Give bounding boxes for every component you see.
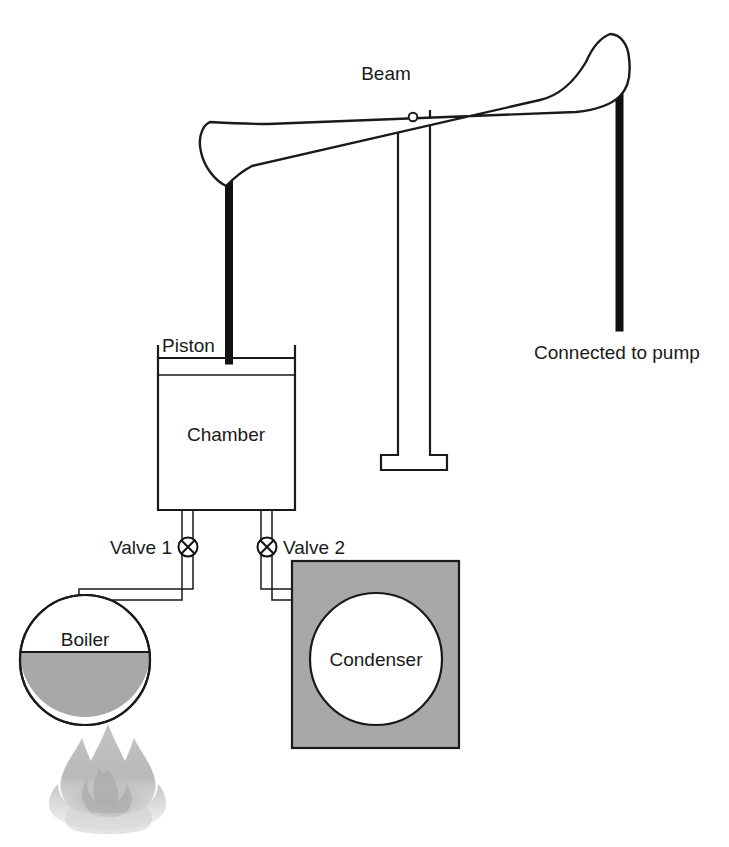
valve-2-icon[interactable] (258, 538, 277, 557)
valve-1-icon[interactable] (179, 538, 198, 557)
boiler (20, 595, 150, 725)
valve-1-label: Valve 1 (110, 537, 172, 558)
engine-schematic-canvas: Beam Piston Chamber Val (0, 0, 729, 847)
piston-label: Piston (162, 335, 215, 356)
beam (200, 34, 630, 186)
chamber-label: Chamber (187, 424, 266, 445)
support-column (381, 110, 447, 470)
valve-2-label: Valve 2 (283, 537, 345, 558)
flame-icon (49, 724, 166, 834)
boiler-label: Boiler (61, 629, 110, 650)
steam-engine-diagram: Beam Piston Chamber Val (0, 0, 729, 847)
beam-pivot-hole (409, 113, 418, 122)
connected-to-pump-label: Connected to pump (534, 342, 700, 363)
piston-rod-left (226, 168, 233, 364)
condenser-label: Condenser (330, 649, 424, 670)
beam-label: Beam (361, 63, 411, 84)
pump-rod-right (616, 92, 623, 331)
